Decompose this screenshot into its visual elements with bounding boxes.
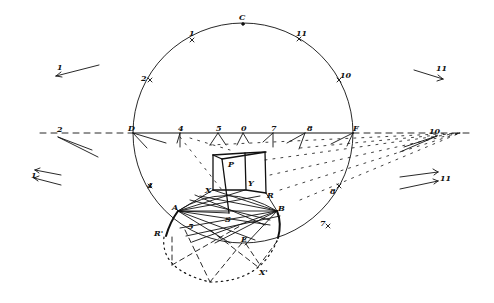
- label-5-ellipse: 5: [188, 222, 194, 230]
- label-1-circle: 1: [189, 29, 195, 37]
- label-4-horizon: 4: [178, 124, 184, 132]
- label-10-circle: 10: [340, 71, 351, 79]
- arrow-right-bottom-1: [400, 169, 438, 177]
- label-A: A: [172, 203, 178, 211]
- label-X-prime: X': [259, 268, 268, 276]
- label-D: D: [128, 124, 135, 132]
- label-11-far-right-bottom: 11: [440, 174, 451, 182]
- label-R: R: [267, 191, 274, 199]
- label-7-circle: 7: [320, 219, 326, 227]
- label-5-horizon: 5: [216, 124, 222, 132]
- label-R-prime: R': [154, 229, 163, 237]
- label-S: S: [225, 215, 231, 223]
- label-10-far-right: 10: [429, 127, 440, 135]
- label-11-far-right: 11: [436, 64, 447, 72]
- label-P: P: [228, 160, 234, 168]
- arrow-left-bottom-1: [35, 168, 61, 175]
- label-7-horizon: 7: [271, 124, 277, 132]
- label-Y: Y: [248, 179, 254, 187]
- label-C: C: [239, 13, 245, 21]
- label-8-horizon: 8: [307, 124, 313, 132]
- perspective-diagram: C 1 11 2 10 D F 4 8 7 4 5 0 7 8 1 2 1 11…: [0, 0, 494, 303]
- label-0-horizon: 0: [241, 124, 247, 132]
- label-2-circle: 2: [141, 74, 147, 82]
- label-B: B: [278, 204, 285, 212]
- label-1-far-left: 1: [57, 63, 63, 71]
- diagram-canvas: [0, 0, 494, 303]
- label-8-circle: 8: [330, 187, 336, 195]
- arrow-right-bottom-2: [400, 179, 438, 189]
- label-1-far-left-bottom: 1: [31, 171, 37, 179]
- arrow-left-bottom-2: [34, 176, 61, 185]
- label-E: E: [241, 235, 247, 243]
- label-F: F: [353, 124, 359, 132]
- label-11-circle: 11: [296, 29, 307, 37]
- label-4-circle: 4: [147, 181, 153, 189]
- label-X: X: [205, 186, 211, 194]
- label-2-far-left: 2: [57, 125, 63, 133]
